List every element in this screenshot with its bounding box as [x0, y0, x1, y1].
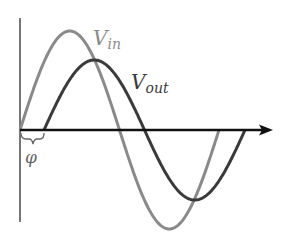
phase-brace — [21, 133, 44, 144]
vin-label: Vin — [93, 26, 121, 52]
vout-label: Vout — [131, 70, 169, 96]
phase-label: φ — [25, 147, 37, 167]
sine-phase-diagram: Vin Vout φ — [0, 0, 285, 246]
